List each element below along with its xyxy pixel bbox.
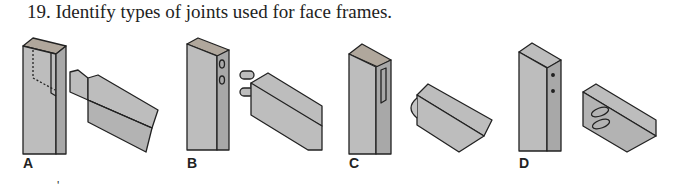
figure-label-a: A <box>23 155 33 171</box>
figure-label-d: D <box>519 155 529 171</box>
figure-label-b: B <box>187 155 197 171</box>
joint-illustrations: ' <box>0 0 674 192</box>
figure-b-rail <box>240 71 322 150</box>
figure-label-c: C <box>349 155 359 171</box>
figure-a-post <box>23 38 66 154</box>
figure-d-rail <box>583 84 656 152</box>
footer-mark: ' <box>57 179 59 192</box>
figure-d-post <box>519 43 561 151</box>
figure-a-rail <box>70 70 158 152</box>
figure-c-post <box>349 44 391 154</box>
figure-c-rail <box>411 84 492 152</box>
figure-b-post <box>187 38 229 150</box>
